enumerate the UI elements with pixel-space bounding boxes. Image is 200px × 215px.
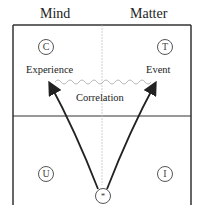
quadrant-c-icon: C — [38, 39, 54, 55]
origin-icon: * — [95, 188, 111, 204]
label-correlation: Correlation — [76, 92, 124, 103]
label-event: Event — [146, 64, 171, 75]
quadrant-i-icon: I — [157, 166, 173, 182]
header-mind: Mind — [40, 6, 70, 22]
header-matter: Matter — [130, 6, 167, 22]
quadrant-u-icon: U — [38, 166, 54, 182]
diagram-lines — [0, 0, 200, 215]
label-experience: Experience — [26, 64, 73, 75]
quadrant-t-icon: T — [157, 39, 173, 55]
